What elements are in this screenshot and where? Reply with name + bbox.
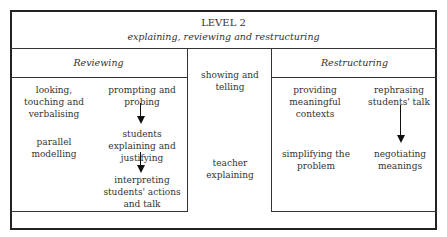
node-showing-telling: showing and telling xyxy=(190,69,270,93)
node-students-explaining-justifying: students explaining and justifying xyxy=(100,128,184,164)
arrow-line-3 xyxy=(400,105,401,136)
node-rephrasing-talk: rephrasing students' talk xyxy=(362,84,436,108)
node-prompting-probing: prompting and probing xyxy=(100,84,184,108)
arrow-line-2 xyxy=(140,152,141,166)
arrow-down-icon xyxy=(137,165,145,173)
arrow-line-1 xyxy=(140,103,141,117)
node-teacher-explaining: teacher explaining xyxy=(190,157,270,181)
restructuring-box: Restructuring xyxy=(271,48,437,212)
node-parallel-modelling: parallel modelling xyxy=(22,136,86,160)
arrow-down-icon xyxy=(397,135,405,143)
arrow-down-icon xyxy=(137,116,145,124)
reviewing-heading: Reviewing xyxy=(10,49,187,78)
node-simplifying-problem: simplifying the problem xyxy=(276,148,356,172)
diagram-subtitle: explaining, reviewing and restructuring xyxy=(10,30,437,43)
restructuring-heading: Restructuring xyxy=(272,49,437,78)
node-interpreting-students: interpreting students' actions and talk xyxy=(97,174,187,210)
node-providing-contexts: providing meaningful contexts xyxy=(280,84,350,120)
diagram-title: LEVEL 2 xyxy=(10,16,437,29)
node-looking-touching-verbalising: looking, touching and verbalising xyxy=(18,84,90,120)
node-negotiating-meanings: negotiating meanings xyxy=(362,148,438,172)
